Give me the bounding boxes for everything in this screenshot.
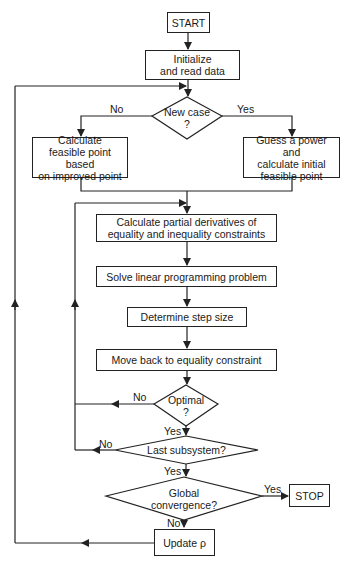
calc-feasible-node: Calculate feasible point based on improv… bbox=[32, 137, 128, 178]
start-label: START bbox=[172, 17, 205, 29]
global-convergence-label: Global convergence? bbox=[151, 487, 217, 511]
step-size-node: Determine step size bbox=[127, 307, 247, 327]
new-case-decision: New case ? bbox=[152, 98, 222, 138]
new-case-yes-label: Yes bbox=[237, 103, 254, 115]
optimal-label: Optimal ? bbox=[168, 394, 204, 418]
optimal-no-label: No bbox=[133, 391, 146, 403]
update-rho-label: Update ρ bbox=[163, 537, 206, 549]
global-convergence-no-label: No bbox=[167, 517, 180, 529]
calc-feasible-label: Calculate feasible point based on improv… bbox=[35, 134, 125, 182]
start-node: START bbox=[167, 12, 210, 33]
last-subsystem-no-label: No bbox=[99, 438, 112, 450]
step-size-label: Determine step size bbox=[141, 311, 234, 323]
initialize-node: Initialize and read data bbox=[145, 50, 240, 80]
optimal-decision: Optimal ? bbox=[154, 386, 218, 426]
solve-lp-label: Solve linear programming problem bbox=[106, 271, 267, 283]
initialize-label: Initialize and read data bbox=[160, 53, 225, 77]
partial-derivatives-node: Calculate partial derivatives of equalit… bbox=[96, 214, 277, 242]
new-case-label: New case ? bbox=[164, 106, 210, 130]
update-rho-node: Update ρ bbox=[154, 529, 215, 556]
new-case-no-label: No bbox=[110, 103, 123, 115]
partial-derivatives-label: Calculate partial derivatives of equalit… bbox=[108, 216, 266, 240]
global-convergence-yes-label: Yes bbox=[264, 483, 281, 495]
move-back-node: Move back to equality constraint bbox=[96, 349, 277, 371]
guess-power-node: Guess a power and calculate initial feas… bbox=[243, 137, 340, 178]
stop-label: STOP bbox=[295, 490, 323, 502]
global-convergence-decision: Global convergence? bbox=[106, 478, 262, 520]
move-back-label: Move back to equality constraint bbox=[112, 354, 262, 366]
solve-lp-node: Solve linear programming problem bbox=[96, 266, 277, 287]
last-subsystem-yes-label: Yes bbox=[164, 465, 181, 477]
last-subsystem-label: Last subsystem? bbox=[147, 444, 226, 456]
last-subsystem-decision: Last subsystem? bbox=[115, 436, 258, 464]
guess-power-label: Guess a power and calculate initial feas… bbox=[246, 134, 337, 182]
stop-node: STOP bbox=[289, 484, 330, 507]
